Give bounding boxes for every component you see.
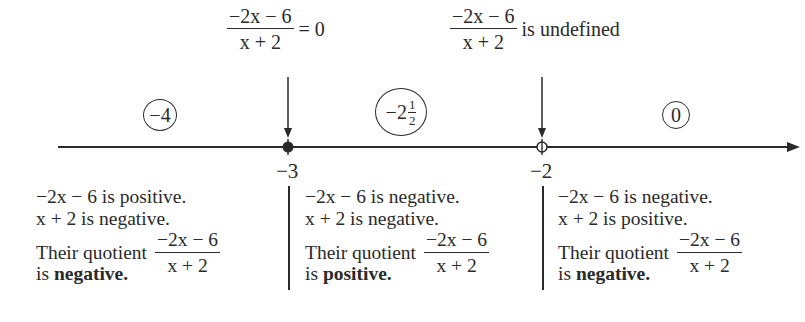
pointer-arrow-zero (284, 77, 292, 138)
test-point-fraction: 1 2 (408, 98, 417, 127)
interval-divider-1 (288, 186, 290, 290)
denominator: x + 2 (436, 253, 476, 276)
result-sign: negative. (54, 263, 128, 284)
arrow-right-icon (787, 142, 800, 152)
interval-divider-2 (542, 186, 544, 290)
open-circle-marker (537, 139, 547, 155)
fraction-numerator: 1 (408, 98, 417, 113)
denominator-sign-text: x + 2 is positive. (558, 208, 742, 230)
result-sign: positive. (323, 263, 392, 284)
interval-description-right: −2x − 6 is negative. x + 2 is positive. … (558, 186, 742, 285)
number-line (58, 142, 800, 152)
numerator-sign-text: −2x − 6 is negative. (558, 186, 742, 208)
denominator-sign-text: x + 2 is negative. (305, 208, 489, 230)
test-point-value: −4 (149, 104, 170, 127)
numerator: −2x − 6 (677, 230, 742, 253)
numerator: −2x − 6 (424, 230, 489, 253)
rational-expression: −2x − 6 x + 2 (677, 230, 742, 275)
fraction-denominator: 2 (409, 113, 416, 127)
interval-description-left: −2x − 6 is positive. x + 2 is negative. … (36, 186, 220, 285)
closed-dot-marker (283, 139, 294, 155)
test-point-whole: −2 (386, 101, 407, 124)
test-point-neg4: −4 (143, 99, 177, 131)
pointer-arrow-undefined (538, 77, 546, 138)
quotient-prefix: Their quotient (305, 242, 416, 264)
test-point-neg2-half: −2 1 2 (375, 88, 427, 136)
tick-label-neg3: −3 (276, 159, 298, 184)
numerator-sign-text: −2x − 6 is negative. (305, 186, 489, 208)
denominator: x + 2 (167, 253, 207, 276)
denominator-sign-text: x + 2 is negative. (36, 208, 220, 230)
interval-description-middle: −2x − 6 is negative. x + 2 is negative. … (305, 186, 489, 285)
numerator-sign-text: −2x − 6 is positive. (36, 186, 220, 208)
rational-expression: −2x − 6 x + 2 (155, 230, 220, 275)
test-point-zero: 0 (662, 101, 690, 129)
rational-expression: −2x − 6 x + 2 (424, 230, 489, 275)
test-point-value: 0 (671, 104, 681, 127)
tick-label-neg2: −2 (530, 159, 552, 184)
result-sign: negative. (576, 263, 650, 284)
quotient-prefix: Their quotient (558, 242, 669, 264)
denominator: x + 2 (689, 253, 729, 276)
numerator: −2x − 6 (155, 230, 220, 253)
quotient-prefix: Their quotient (36, 242, 147, 264)
